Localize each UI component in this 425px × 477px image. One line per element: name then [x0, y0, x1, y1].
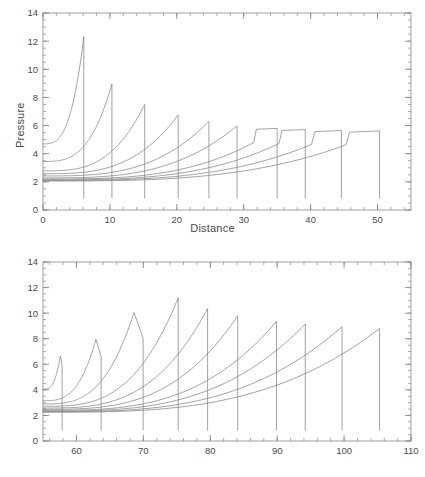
plot-area-top: 0102030405002468101214 — [0, 0, 425, 240]
y-tick-label: 12 — [27, 282, 38, 293]
x-tick-label: 110 — [403, 445, 418, 456]
x-axis-label-top: Distance — [0, 222, 425, 234]
x-tick-label: 90 — [272, 445, 283, 456]
y-axis-label-top: Pressure — [14, 102, 26, 148]
pressure-distance-figure: 0102030405002468101214 Pressure Distance… — [0, 0, 425, 477]
series-line — [43, 316, 238, 430]
x-tick-label: 60 — [71, 445, 82, 456]
y-tick-label: 0 — [33, 435, 38, 446]
y-tick-label: 10 — [27, 64, 38, 75]
y-tick-label: 12 — [27, 36, 38, 47]
y-tick-label: 14 — [27, 256, 38, 267]
y-tick-label: 0 — [33, 204, 38, 215]
series-line — [43, 328, 380, 430]
series-line — [43, 356, 62, 430]
series-line — [43, 131, 380, 198]
y-tick-label: 6 — [33, 120, 38, 131]
y-tick-label: 4 — [33, 148, 38, 159]
chart-panel-bottom: 6070809010011002468101214 Pressure Dista… — [0, 240, 425, 477]
series-line — [43, 324, 305, 430]
plot-area-bottom: 6070809010011002468101214 — [0, 240, 425, 477]
x-tick-label: 100 — [336, 445, 352, 456]
y-tick-label: 10 — [27, 308, 38, 319]
y-tick-label: 14 — [27, 7, 38, 18]
series-line — [43, 104, 145, 198]
series-line — [43, 115, 178, 198]
chart-panel-top: 0102030405002468101214 Pressure Distance — [0, 0, 425, 240]
series-line — [43, 128, 277, 198]
y-tick-label: 8 — [33, 92, 38, 103]
y-tick-label: 2 — [33, 410, 38, 421]
y-tick-label: 6 — [33, 359, 38, 370]
y-tick-label: 2 — [33, 176, 38, 187]
x-tick-label: 70 — [138, 445, 149, 456]
plot-frame — [43, 262, 411, 441]
y-tick-label: 8 — [33, 333, 38, 344]
y-tick-label: 4 — [33, 384, 38, 395]
series-line — [43, 130, 305, 199]
series-line — [43, 327, 342, 431]
series-line — [43, 121, 209, 198]
x-tick-label: 80 — [205, 445, 216, 456]
